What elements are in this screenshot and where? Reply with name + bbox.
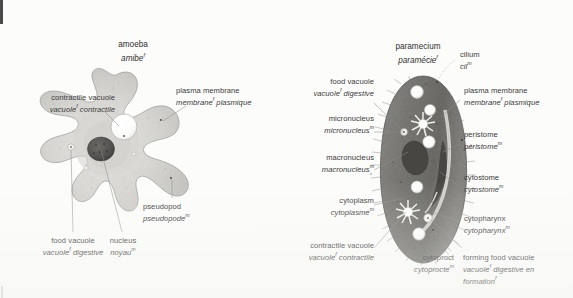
paramecium-title: paramecium paramécief	[383, 42, 453, 66]
label-en: contractile vacuole	[286, 241, 374, 250]
label-paramecium-cytopharynx: cytopharynx cytopharynxm	[464, 214, 544, 235]
amoeba-title-fr: amibef	[93, 50, 173, 64]
label-en: peristome	[464, 130, 534, 139]
label-fr: membranef plasmique	[176, 95, 276, 107]
label-en: cilium	[460, 50, 520, 59]
amoeba-title: amoeba amibef	[93, 40, 173, 64]
label-fr: micronucleusm	[292, 123, 374, 135]
label-paramecium-plasma-membrane: plasma membrane membranef plasmique	[464, 86, 564, 107]
label-fr: cytoproctem	[394, 262, 454, 274]
label-en: cytoplasm	[300, 196, 374, 205]
paramecium-plasma-membrane-point	[461, 139, 463, 141]
label-amoeba-plasma-membrane: plasma membrane membranef plasmique	[176, 86, 276, 107]
paramecium-cilium-point	[436, 81, 438, 83]
paramecium-cytoproct-point	[432, 229, 434, 231]
label-en: nucleus	[96, 236, 150, 245]
label-en: plasma membrane	[464, 86, 564, 95]
label-en: food vacuole	[288, 77, 374, 86]
label-amoeba-pseudopod: pseudopod pseudopodem	[143, 202, 233, 223]
label-fr: macronucleusm	[288, 162, 374, 174]
label-paramecium-cytoplasm: cytoplasm cytoplasmem	[300, 196, 374, 217]
label-paramecium-peristome: peristome péristomem	[464, 130, 534, 151]
label-paramecium-cilium: cilium cilm	[460, 50, 520, 71]
label-en: macronucleus	[288, 153, 374, 162]
label-fr: vacuolef contractile	[20, 102, 115, 114]
label-amoeba-contractile-vacuole: contractile vacuole vacuolef contractile	[20, 93, 115, 114]
label-en: micronucleus	[292, 114, 374, 123]
paramecium-title-fr: paramécief	[383, 52, 453, 66]
amoeba-nucleus-shape	[88, 137, 115, 161]
paramecium-food-vacuole-shape	[411, 86, 424, 99]
amoeba-plasma-membrane-point	[160, 119, 162, 121]
diagram-page: amoeba amibef contractile vacuole vacuol…	[0, 0, 573, 298]
label-fr: pseudopodem	[143, 211, 233, 223]
label-fr: cytopharynxm	[464, 223, 544, 235]
label-en: cytopharynx	[464, 214, 544, 223]
label-paramecium-micronucleus: micronucleus micronucleusm	[292, 114, 374, 135]
label-fr: cytoplasmem	[300, 205, 374, 217]
label-fr: cytostomem	[464, 182, 534, 194]
label-en: cytostome	[464, 173, 534, 182]
label-paramecium-forming-food-vacuole: forming food vacuole vacuolef digestive …	[463, 253, 567, 286]
scan-edge-artifact-bottom	[1, 286, 3, 298]
amoeba-pseudopod-point	[170, 177, 172, 179]
label-paramecium-contractile-vacuole: contractile vacuole vacuolef contractile	[286, 241, 374, 262]
label-fr: vacuolef digestive en formationf	[463, 262, 567, 286]
scan-edge-artifact	[0, 0, 3, 24]
label-en: forming food vacuole	[463, 253, 567, 262]
label-fr: noyaum	[96, 245, 150, 257]
amoeba-title-en: amoeba	[93, 40, 173, 50]
label-en: contractile vacuole	[20, 93, 115, 102]
label-en: cytoproct	[394, 253, 454, 262]
label-amoeba-nucleus: nucleus noyaum	[96, 236, 150, 257]
label-fr: cilm	[460, 59, 520, 71]
label-fr: vacuolef contractile	[286, 250, 374, 262]
label-en: plasma membrane	[176, 86, 276, 95]
label-fr: vacuolef digestive	[288, 86, 374, 98]
label-fr: membranef plasmique	[464, 95, 564, 107]
label-paramecium-cytoproct: cytoproct cytoproctem	[394, 253, 454, 274]
label-en: pseudopod	[143, 202, 233, 211]
label-paramecium-cytostome: cytostome cytostomem	[464, 173, 534, 194]
paramecium-title-en: paramecium	[383, 42, 453, 52]
label-paramecium-food-vacuole: food vacuole vacuolef digestive	[288, 77, 374, 98]
label-fr: péristomem	[464, 139, 534, 151]
label-paramecium-macronucleus: macronucleus macronucleusm	[288, 153, 374, 174]
